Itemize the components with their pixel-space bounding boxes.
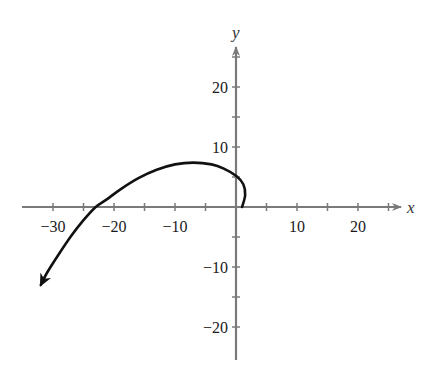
x-tick-label: 10 <box>289 218 305 235</box>
y-tick-label: 10 <box>212 139 228 156</box>
chart-plot: −30−20−1010202010−10−20 x y <box>0 0 445 385</box>
x-axis-label: x <box>406 198 415 217</box>
x-tick-label: −30 <box>40 218 65 235</box>
x-tick-label: −20 <box>101 218 126 235</box>
tick-marks <box>53 57 389 327</box>
y-tick-label: −20 <box>203 319 228 336</box>
y-tick-label: 20 <box>212 79 228 96</box>
y-tick-label: −10 <box>203 259 228 276</box>
x-tick-label: −10 <box>162 218 187 235</box>
x-tick-label: 20 <box>350 218 366 235</box>
y-axis-label: y <box>230 23 240 42</box>
